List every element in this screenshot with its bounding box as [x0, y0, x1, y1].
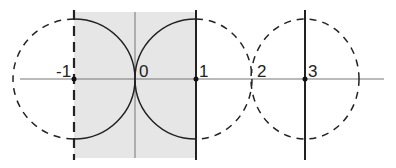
point-1 [194, 77, 199, 82]
diagram-canvas: -1 0 1 2 3 [0, 0, 396, 168]
label-0: 0 [139, 62, 148, 81]
point-3 [303, 77, 308, 82]
label-3: 3 [308, 62, 317, 81]
point-minus1 [72, 77, 77, 82]
label-2: 2 [257, 62, 266, 81]
label-minus1: -1 [56, 62, 71, 81]
label-1: 1 [199, 62, 208, 81]
diagram: -1 0 1 2 3 [0, 0, 396, 168]
